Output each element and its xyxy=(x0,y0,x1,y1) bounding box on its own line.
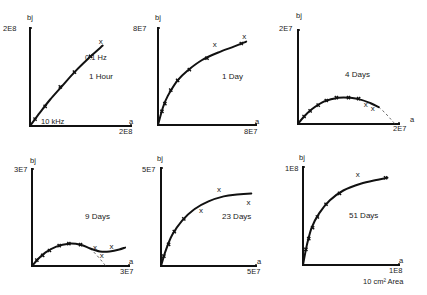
panel-4-days: bj 2E7 a 2E7 4 Days xx xyxy=(279,11,415,133)
x-max-label: 2E8 xyxy=(119,127,132,136)
y-max-label: 3E7 xyxy=(14,165,27,174)
measured-point-x: x xyxy=(217,185,221,194)
y-axis-label: bj xyxy=(155,13,161,22)
measured-point-x: x xyxy=(356,170,360,179)
x-max-label: 3E7 xyxy=(120,267,133,276)
measured-point-x: x xyxy=(246,198,250,207)
x-axis-label: a xyxy=(257,257,262,266)
panel-23-days: bj 5E7 a 5E7 23 Days xxx xyxy=(142,154,262,276)
y-axis-label: bj xyxy=(27,13,33,22)
x-axis-label: a xyxy=(399,256,404,265)
panel-1-hour: bj 2E8 a 2E8 1 Hour 0.1 Hz 10 kHz x xyxy=(3,13,134,136)
panel-9-days: bj 3E7 a 3E7 9 Days xxx xyxy=(14,156,134,276)
y-max-label: 1E8 xyxy=(285,164,298,173)
x-axis-label: a xyxy=(129,257,134,266)
panel-title: 23 Days xyxy=(222,212,251,221)
extrapolated-curve xyxy=(379,107,395,124)
measured-point-x: x xyxy=(99,37,103,46)
panel-title: 9 Days xyxy=(85,212,110,221)
x-max-label: 2E7 xyxy=(393,124,406,133)
panel-51-days: bj 1E8 a 1E8 51 Days x xyxy=(285,153,404,275)
x-max-label: 5E7 xyxy=(247,267,260,276)
panel-title: 1 Hour xyxy=(89,72,113,81)
measured-point-x: x xyxy=(371,104,375,113)
measured-point-x: x xyxy=(110,242,114,251)
y-axis-label: bj xyxy=(299,153,305,162)
fitted-curve xyxy=(158,42,246,125)
measured-point-x: x xyxy=(93,243,97,252)
measured-point-x: x xyxy=(213,40,217,49)
y-max-label: 5E7 xyxy=(142,165,155,174)
panel-title: 4 Days xyxy=(345,70,370,79)
panel-title: 51 Days xyxy=(349,211,378,220)
x-max-label: 8E7 xyxy=(244,127,257,136)
measured-point-x: x xyxy=(364,100,368,109)
y-max-label: 2E8 xyxy=(3,24,16,33)
impedance-plots-figure: bj 2E8 a 2E8 1 Hour 0.1 Hz 10 kHz x bj 8… xyxy=(0,0,427,295)
y-max-label: 2E7 xyxy=(279,24,292,33)
measured-point-x: x xyxy=(242,32,246,41)
y-axis-label: bj xyxy=(157,154,163,163)
measured-point-x: x xyxy=(199,206,203,215)
x-axis-label: a xyxy=(410,115,415,124)
panel-title: 1 Day xyxy=(222,72,243,81)
fitted-curve xyxy=(303,178,388,265)
y-axis-label: bj xyxy=(296,11,302,20)
y-max-label: 8E7 xyxy=(133,24,146,33)
panel-1-day: bj 8E7 a 8E7 1 Day xx xyxy=(133,13,260,136)
measured-point-x: x xyxy=(100,251,104,260)
annotation-high-freq: 10 kHz xyxy=(41,117,65,126)
area-footnote: 10 cm² Area xyxy=(363,277,404,286)
x-max-label: 1E8 xyxy=(389,266,402,275)
fitted-curve xyxy=(161,194,251,267)
y-axis-label: bj xyxy=(30,156,36,165)
